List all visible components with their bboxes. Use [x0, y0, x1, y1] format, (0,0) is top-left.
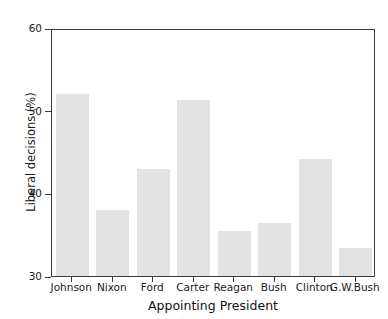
bar-chart-figure: Liberal decisions (%) 30405060 JohnsonNi… [0, 0, 388, 319]
x-tick-label: G.W.Bush [330, 281, 380, 293]
bar[interactable] [299, 159, 332, 276]
bar[interactable] [137, 169, 170, 276]
y-tick-label: 40 [29, 187, 42, 199]
bar[interactable] [96, 210, 129, 276]
x-tick-label: Bush [261, 281, 287, 293]
y-tick-mark [45, 277, 51, 278]
x-tick-label: Johnson [51, 281, 92, 293]
y-axis-title: Liberal decisions (%) [24, 42, 38, 262]
x-tick-label: Reagan [214, 281, 253, 293]
y-tick-mark [45, 29, 51, 30]
bar[interactable] [339, 248, 372, 276]
plot-area [51, 29, 375, 277]
bar[interactable] [56, 94, 89, 276]
cropped-caption-remnant [96, 0, 246, 3]
x-tick-label: Clinton [296, 281, 333, 293]
bar[interactable] [218, 231, 251, 276]
x-tick-label: Carter [176, 281, 209, 293]
y-tick-label: 50 [29, 105, 42, 117]
x-tick-label: Ford [141, 281, 164, 293]
y-tick-label: 60 [29, 22, 42, 34]
bar[interactable] [258, 223, 291, 276]
y-tick-mark [45, 194, 51, 195]
bar[interactable] [177, 100, 210, 276]
x-tick-label: Nixon [97, 281, 127, 293]
x-axis-title: Appointing President [51, 298, 375, 313]
y-tick-label: 30 [29, 270, 42, 282]
y-tick-mark [45, 111, 51, 112]
